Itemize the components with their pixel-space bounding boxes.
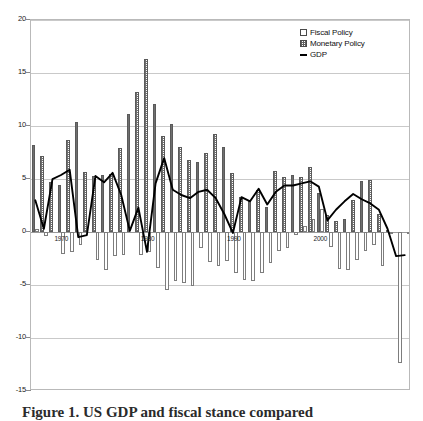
x-tick-label-1980: 1980 <box>141 235 155 242</box>
legend-label-fiscal: Fiscal Policy <box>310 27 353 38</box>
y-tick-label-0: 0 <box>2 227 26 235</box>
x-tick-label-1990: 1990 <box>227 235 241 242</box>
legend-swatch-monetary-icon <box>300 40 307 47</box>
legend-item-fiscal-policy: Fiscal Policy <box>300 27 365 38</box>
x-tick-label-1970: 1970 <box>54 235 68 242</box>
plot-area: 1970198019902000 <box>30 19 410 390</box>
y-tick-label--10: -10 <box>2 333 26 341</box>
y-tick-label-15: 15 <box>2 68 26 76</box>
x-tick-label-2000: 2000 <box>313 235 327 242</box>
legend-swatch-fiscal-icon <box>300 29 307 36</box>
figure-caption: Figure 1. US GDP and fiscal stance compa… <box>22 404 422 421</box>
y-tick-label-10: 10 <box>2 121 26 129</box>
chart-legend: Fiscal Policy Monetary Policy GDP <box>296 24 369 63</box>
y-tick-label-20: 20 <box>2 15 26 23</box>
y-tick-mark--15 <box>26 390 31 391</box>
gdp-line-series <box>31 20 409 389</box>
legend-item-monetary-policy: Monetary Policy <box>300 38 365 49</box>
y-tick-label-5: 5 <box>2 174 26 182</box>
y-tick-label--15: -15 <box>2 386 26 394</box>
legend-label-monetary: Monetary Policy <box>310 38 365 49</box>
legend-item-gdp: GDP <box>300 49 365 60</box>
legend-swatch-gdp-line-icon <box>300 51 307 58</box>
legend-label-gdp: GDP <box>310 49 327 60</box>
y-tick-label--5: -5 <box>2 280 26 288</box>
